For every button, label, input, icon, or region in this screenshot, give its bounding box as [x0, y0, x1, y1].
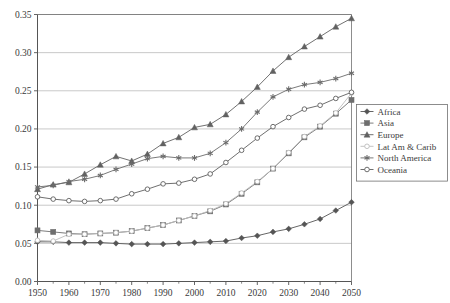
- data-point-lat-am-carib: [177, 218, 182, 223]
- data-point-oceania: [349, 90, 354, 95]
- series-markers: [35, 15, 355, 247]
- data-point-lat-am-carib: [208, 208, 213, 213]
- data-point-oceania: [224, 160, 229, 165]
- data-point-oceania: [208, 172, 213, 177]
- data-point-europe: [97, 162, 103, 167]
- data-point-africa: [98, 240, 104, 246]
- y-axis-tick-label: 0.35: [15, 10, 32, 20]
- data-point-oceania: [334, 96, 339, 101]
- data-point-africa: [66, 240, 72, 246]
- data-point-africa: [270, 229, 276, 235]
- data-point-lat-am-carib: [161, 223, 166, 228]
- data-point-oceania: [192, 177, 197, 182]
- data-point-oceania: [145, 187, 150, 192]
- y-axis-tick-label: 0.30: [15, 48, 32, 58]
- y-axis-tick-label: 0.05: [15, 239, 32, 249]
- data-point-lat-am-carib: [318, 124, 323, 129]
- data-point-europe: [113, 153, 119, 158]
- data-point-europe: [286, 54, 292, 59]
- data-point-africa: [255, 233, 261, 239]
- x-axis-tick-label: 2050: [342, 288, 361, 298]
- data-point-lat-am-carib: [255, 179, 260, 184]
- data-point-africa: [82, 240, 88, 246]
- data-point-europe: [82, 171, 88, 176]
- data-point-lat-am-carib: [51, 239, 56, 244]
- x-axis-tick-label: 2000: [185, 288, 204, 298]
- y-axis-tick-label: 0.00: [15, 277, 32, 287]
- data-point-oceania: [114, 197, 119, 202]
- data-point-oceania: [302, 107, 307, 112]
- data-point-oceania: [82, 199, 87, 204]
- data-point-lat-am-carib: [334, 111, 339, 116]
- data-point-europe: [144, 151, 150, 156]
- data-point-africa: [207, 239, 213, 245]
- data-point-africa: [302, 221, 308, 227]
- data-point-lat-am-carib: [98, 231, 103, 236]
- data-point-lat-am-carib: [239, 191, 244, 196]
- data-point-north-america: [349, 70, 354, 76]
- data-point-africa: [286, 226, 292, 232]
- data-point-oceania: [129, 191, 134, 196]
- data-point-oceania: [318, 103, 323, 108]
- data-point-north-america: [208, 150, 213, 156]
- data-point-asia: [35, 228, 40, 233]
- data-point-africa: [176, 241, 182, 247]
- data-point-lat-am-carib: [302, 134, 307, 139]
- x-axis-tick-label: 2010: [216, 288, 235, 298]
- legend: AfricaAsiaEuropeLat Am & CaribNorth Amer…: [357, 105, 448, 182]
- y-axis-tick-label: 0.25: [15, 86, 32, 96]
- legend-label: North America: [378, 153, 432, 163]
- x-axis-tick-label: 1980: [122, 288, 141, 298]
- line-chart: 0.000.050.100.150.200.250.300.35 1950196…: [0, 0, 450, 303]
- x-axis-tick-label: 2020: [248, 288, 267, 298]
- y-axis-tick-label: 0.10: [15, 201, 32, 211]
- data-point-oceania: [98, 198, 103, 203]
- square-marker: [365, 121, 370, 126]
- data-point-lat-am-carib: [129, 229, 134, 234]
- data-point-lat-am-carib: [192, 214, 197, 219]
- data-point-lat-am-carib: [82, 232, 87, 237]
- data-point-africa: [129, 241, 135, 247]
- legend-label: Africa: [378, 107, 401, 117]
- legend-label: Europe: [378, 130, 404, 140]
- data-point-asia: [349, 97, 354, 102]
- data-point-africa: [239, 235, 245, 241]
- data-point-oceania: [51, 197, 56, 202]
- data-point-oceania: [161, 182, 166, 187]
- data-point-africa: [160, 241, 166, 247]
- open-circle-marker: [365, 144, 370, 149]
- data-point-oceania: [255, 136, 260, 141]
- data-point-africa: [192, 240, 198, 246]
- data-point-lat-am-carib: [286, 150, 291, 155]
- data-point-africa: [145, 241, 151, 247]
- x-axis-tick-label: 2030: [279, 288, 298, 298]
- data-point-north-america: [286, 86, 291, 92]
- chart-container: 0.000.050.100.150.200.250.300.35 1950196…: [0, 0, 450, 303]
- legend-label: Asia: [378, 118, 395, 128]
- x-axis-tick-labels: 1950196019701980199020002010202020302040…: [28, 288, 361, 298]
- x-axis-tick-label: 1970: [91, 288, 110, 298]
- data-point-oceania: [67, 198, 72, 203]
- legend-label: Lat Am & Carib: [378, 142, 437, 152]
- data-point-lat-am-carib: [114, 230, 119, 235]
- data-point-lat-am-carib: [35, 238, 40, 243]
- data-point-oceania: [239, 148, 244, 153]
- data-point-oceania: [35, 195, 40, 200]
- data-point-africa: [317, 216, 323, 222]
- data-point-europe: [317, 34, 323, 39]
- data-point-europe: [176, 134, 182, 139]
- data-point-oceania: [177, 181, 182, 186]
- data-point-oceania: [271, 124, 276, 129]
- data-point-africa: [349, 199, 355, 205]
- x-axis-tick-label: 1950: [28, 288, 47, 298]
- data-point-lat-am-carib: [67, 232, 72, 237]
- data-point-lat-am-carib: [145, 226, 150, 231]
- y-axis-tick-labels: 0.000.050.100.150.200.250.300.35: [15, 10, 32, 287]
- data-point-africa: [333, 208, 339, 214]
- y-axis-tick-label: 0.15: [15, 162, 32, 172]
- legend-label: Oceania: [378, 165, 407, 175]
- data-point-europe: [207, 121, 213, 126]
- data-point-asia: [51, 229, 56, 234]
- y-axis-tick-label: 0.20: [15, 124, 32, 134]
- data-point-europe: [160, 140, 166, 145]
